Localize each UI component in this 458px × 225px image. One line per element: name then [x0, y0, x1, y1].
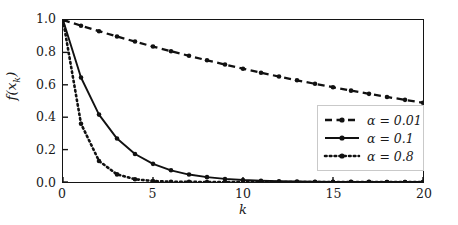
series-marker-2: [385, 180, 390, 182]
series-marker-0: [385, 95, 390, 100]
series-marker-0: [349, 88, 354, 93]
y-axis-label-base: f(x: [3, 83, 19, 101]
series-marker-2: [97, 159, 102, 164]
series-marker-1: [169, 168, 174, 173]
y-tick-label: 0.0: [26, 177, 56, 190]
legend-label: α = 0.1: [361, 131, 414, 146]
x-axis-label: k: [62, 203, 424, 216]
series-marker-1: [79, 75, 84, 80]
legend-swatch-icon: [323, 149, 361, 163]
series-marker-0: [313, 82, 318, 87]
series-marker-0: [205, 58, 210, 63]
series-marker-0: [277, 74, 282, 79]
series-marker-2: [151, 179, 156, 182]
series-marker-0: [331, 85, 336, 90]
series-marker-1: [97, 112, 102, 117]
series-marker-0: [241, 66, 246, 71]
series-marker-2: [115, 172, 120, 177]
legend-label: α = 0.01: [361, 113, 422, 128]
series-marker-0: [169, 49, 174, 54]
series-marker-2: [169, 179, 174, 182]
series-marker-2: [367, 180, 372, 182]
series-marker-0: [115, 34, 120, 39]
series-marker-2: [187, 180, 192, 182]
series-marker-1: [205, 175, 210, 180]
y-tick-label: 0.6: [26, 78, 56, 91]
series-marker-0: [295, 78, 300, 83]
series-marker-0: [259, 70, 264, 75]
series-marker-0: [97, 29, 102, 34]
series-marker-1: [133, 152, 138, 157]
series-marker-2: [79, 121, 84, 126]
legend-item[interactable]: α = 0.8: [323, 147, 417, 165]
x-tick-label: 20: [416, 188, 432, 201]
legend-label: α = 0.8: [361, 149, 414, 164]
series-marker-2: [331, 180, 336, 182]
y-tick-label: 0.2: [26, 144, 56, 157]
legend-item[interactable]: α = 0.01: [323, 111, 417, 129]
legend-swatch-icon: [323, 131, 361, 145]
series-line-0: [63, 20, 423, 103]
y-axis-label-subscript: k: [11, 77, 22, 83]
series-marker-0: [403, 98, 408, 103]
series-marker-1: [115, 136, 120, 141]
y-axis-tick-labels: 0.00.20.40.60.81.0: [22, 19, 56, 183]
series-marker-2: [403, 180, 408, 182]
series-marker-2: [63, 20, 65, 22]
x-tick-label: 0: [58, 188, 66, 201]
series-marker-0: [151, 44, 156, 49]
series-marker-2: [421, 180, 423, 182]
y-axis-label-tail: ): [3, 72, 19, 77]
series-marker-0: [367, 92, 372, 97]
chart-legend: α = 0.01α = 0.1α = 0.8: [317, 105, 424, 171]
y-tick-label: 1.0: [26, 13, 56, 26]
y-tick-label: 0.4: [26, 111, 56, 124]
series-marker-0: [79, 23, 84, 28]
series-marker-1: [187, 172, 192, 177]
series-marker-2: [349, 180, 354, 182]
chart-figure: 0.00.20.40.60.81.0 f(xk) 05101520 k α = …: [0, 0, 458, 225]
series-marker-2: [133, 177, 138, 182]
series-marker-1: [151, 162, 156, 167]
x-tick-label: 10: [235, 188, 251, 201]
series-marker-2: [205, 180, 210, 182]
y-tick-label: 0.8: [26, 46, 56, 59]
x-tick-label: 15: [326, 188, 342, 201]
series-marker-0: [223, 62, 228, 67]
x-tick-label: 5: [149, 188, 157, 201]
legend-swatch-icon: [323, 113, 361, 127]
y-axis-label: f(xk): [5, 51, 21, 121]
legend-item[interactable]: α = 0.1: [323, 129, 417, 147]
series-marker-0: [187, 54, 192, 59]
series-marker-0: [133, 39, 138, 44]
